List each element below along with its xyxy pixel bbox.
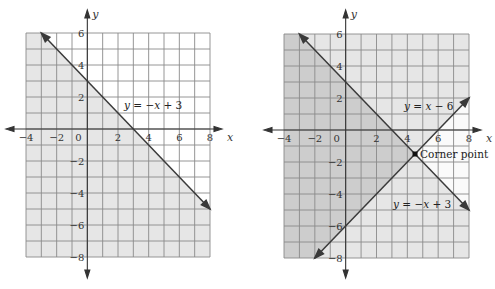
equation-label-y-eq-neg-x-plus-3: y = −x + 3 [392, 198, 451, 210]
y-tick-label: −2 [328, 157, 343, 168]
x-tick-label: −4 [19, 132, 34, 143]
y-tick-label: −4 [328, 189, 343, 200]
x-tick-label: 4 [145, 132, 151, 143]
x-axis-right-arrow-icon [473, 128, 481, 133]
x-axis-label: x [227, 131, 234, 144]
x-tick-label: 8 [207, 132, 213, 143]
x-axis-left-arrow-icon [264, 128, 272, 133]
y-axis-down-arrow-icon [85, 270, 90, 278]
x-tick-label: 8 [466, 133, 472, 144]
x-tick-label: −2 [307, 133, 322, 144]
y-tick-label: −8 [328, 253, 343, 264]
equation-label: y = −x + 3 [123, 99, 182, 111]
x-tick-label: 0 [333, 133, 339, 144]
graph-right: xy−4−202468642−2−4−6−8y = x − 6y = −x + … [264, 8, 493, 278]
y-axis-label: y [350, 8, 358, 21]
y-tick-label: −6 [70, 220, 85, 231]
x-tick-label: 4 [404, 133, 410, 144]
x-tick-label: 6 [176, 132, 182, 143]
corner-point-label: Corner point [420, 148, 489, 160]
x-tick-label: 2 [115, 132, 121, 143]
y-tick-label: −8 [70, 252, 85, 263]
y-axis-label: y [91, 8, 99, 21]
y-tick-label: 4 [78, 60, 84, 71]
x-axis-label: x [486, 132, 493, 145]
y-tick-label: 6 [336, 29, 342, 40]
figure: xy−4−202468642−2−4−6−8y = −x + 3xy−4−202… [0, 0, 495, 289]
y-axis-down-arrow-icon [343, 270, 348, 278]
x-tick-label: 0 [75, 132, 81, 143]
y-tick-label: 4 [336, 61, 342, 72]
y-tick-label: −4 [70, 188, 85, 199]
x-axis-left-arrow-icon [6, 127, 14, 132]
graph-left: xy−4−202468642−2−4−6−8y = −x + 3 [6, 8, 234, 278]
x-tick-label: 2 [373, 133, 379, 144]
y-axis-up-arrow-icon [343, 10, 348, 18]
x-tick-label: −2 [49, 132, 64, 143]
equation-label-y-eq-x-minus-6: y = x − 6 [403, 100, 454, 112]
y-tick-label: −2 [70, 156, 85, 167]
y-tick-label: 6 [78, 28, 84, 39]
x-tick-label: 6 [435, 133, 441, 144]
x-axis-right-arrow-icon [214, 127, 222, 132]
y-tick-label: 2 [78, 92, 84, 103]
corner-point-marker [413, 152, 418, 157]
x-tick-label: −4 [277, 133, 292, 144]
y-tick-label: 2 [336, 93, 342, 104]
y-axis-up-arrow-icon [85, 10, 90, 18]
